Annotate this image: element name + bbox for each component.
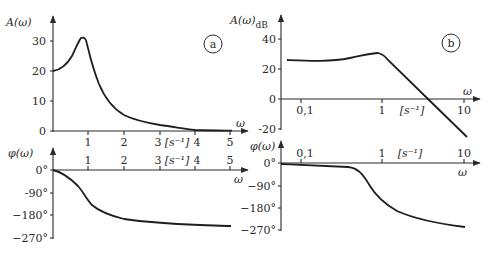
y-tick: -20 (258, 123, 276, 136)
y-tick: 30 (32, 35, 46, 48)
y-tick: 40 (262, 33, 276, 46)
phase-curve (281, 164, 465, 227)
y-tick: 20 (262, 63, 276, 76)
panel-b-amplitude: 40 20 0 -20 0,1 1 [s⁻¹] 10 ω A(ω)dB b (229, 14, 480, 137)
y-tick: -90° (25, 187, 48, 200)
x-label: ω (234, 173, 243, 186)
y-tick: 0 (39, 125, 46, 138)
panel-a-amplitude: 30 20 10 0 1 2 3 [s⁻¹] 4 5 ω A(ω) a (5, 16, 248, 149)
badge-label: b (447, 37, 454, 50)
phase-curve (53, 170, 231, 226)
y-label: φ(ω) (8, 147, 33, 160)
x-unit: [s⁻¹] (165, 136, 190, 149)
x-tick: 3 (155, 136, 162, 149)
x-tick: 0,1 (296, 104, 314, 117)
y-label: A(ω) (5, 16, 32, 29)
x-tick: 1 (85, 136, 92, 149)
figure: 30 20 10 0 1 2 3 [s⁻¹] 4 5 ω A(ω) a 1 2 … (0, 0, 495, 254)
badge-label: a (210, 38, 217, 51)
x-tick: 5 (227, 154, 234, 167)
y-tick: 0° (36, 164, 49, 177)
x-tick: 1 (85, 154, 92, 167)
x-tick: 4 (194, 154, 201, 167)
y-tick: 10 (32, 95, 46, 108)
x-unit: [s⁻¹] (398, 147, 423, 160)
x-tick: 4 (194, 136, 201, 149)
x-tick: 10 (457, 104, 471, 117)
y-tick: −90° (247, 180, 276, 193)
x-label: ω (463, 85, 472, 98)
y-tick: −180° (240, 202, 276, 215)
x-tick: 2 (121, 154, 128, 167)
x-tick: 10 (457, 147, 471, 160)
y-tick: 0 (269, 93, 276, 106)
amplitude-curve (53, 38, 232, 131)
x-unit: [s⁻¹] (165, 154, 190, 167)
panel-b-phase: 0,1 1 [s⁻¹] 10 ω φ(ω) 0° −90° −180° −270… (240, 140, 480, 237)
y-tick: 20 (32, 65, 46, 78)
x-label: ω (458, 166, 467, 179)
x-tick: 1 (379, 147, 386, 160)
x-tick: 1 (379, 104, 386, 117)
x-tick: 3 (155, 154, 162, 167)
x-tick: 0,1 (296, 147, 314, 160)
panel-a-phase: 1 2 3 [s⁻¹] 4 5 ω φ(ω) 0° -90° −180° −27… (8, 147, 248, 245)
x-tick: 2 (121, 136, 128, 149)
y-tick: 0° (264, 157, 277, 170)
x-label: ω (236, 117, 245, 130)
y-tick: −180° (12, 209, 48, 222)
x-unit: [s⁻¹] (400, 104, 425, 117)
y-tick: −270° (240, 224, 276, 237)
y-label: A(ω)dB (229, 14, 268, 30)
y-tick: −270° (12, 232, 48, 245)
y-label: φ(ω) (250, 140, 275, 153)
amplitude-db-curve (287, 53, 467, 137)
x-tick: 5 (227, 136, 234, 149)
